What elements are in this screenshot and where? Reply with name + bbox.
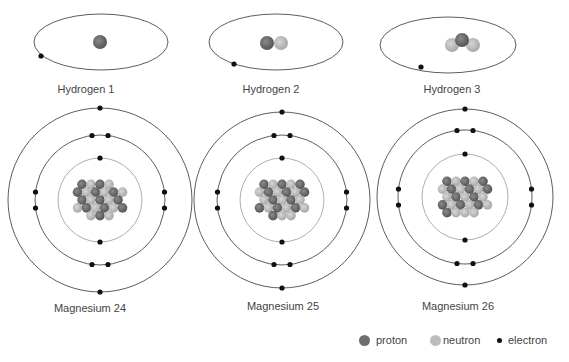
- label-hydrogen-3: Hydrogen 3: [424, 83, 481, 95]
- electron: [454, 261, 459, 266]
- label-hydrogen-2: Hydrogen 2: [243, 83, 300, 95]
- electron: [396, 186, 401, 191]
- electron: [162, 189, 167, 194]
- proton: [118, 203, 128, 213]
- electron: [97, 105, 102, 110]
- legend-electron: electron: [497, 334, 547, 346]
- electron: [231, 61, 236, 66]
- electron: [462, 237, 467, 242]
- legend-proton: proton: [359, 334, 407, 346]
- neutron: [460, 208, 470, 218]
- electron: [105, 262, 110, 267]
- electron: [97, 239, 102, 244]
- label-magnesium-26: Magnesium 26: [422, 300, 494, 312]
- electron: [33, 205, 38, 210]
- proton: [455, 33, 469, 47]
- electron-icon: [497, 338, 502, 343]
- proton: [442, 208, 452, 218]
- label-magnesium-24: Magnesium 24: [54, 302, 126, 314]
- electron: [271, 133, 276, 138]
- electron: [462, 106, 467, 111]
- electron: [287, 262, 292, 267]
- electron: [33, 189, 38, 194]
- electron: [462, 151, 467, 156]
- atom-hydrogen-1: [34, 14, 168, 70]
- proton: [95, 211, 105, 221]
- electron: [271, 262, 276, 267]
- electron: [454, 128, 459, 133]
- electron: [215, 189, 220, 194]
- electron: [162, 205, 167, 210]
- legend-neutron-label: neutron: [443, 334, 480, 346]
- legend-neutron: neutron: [430, 334, 480, 346]
- electron: [279, 285, 284, 290]
- neutron: [277, 211, 287, 221]
- proton: [255, 203, 265, 213]
- neutron: [469, 208, 479, 218]
- neutron: [451, 208, 461, 218]
- electron: [287, 133, 292, 138]
- electron: [470, 261, 475, 266]
- legend-electron-label: electron: [508, 334, 547, 346]
- neutron: [286, 211, 296, 221]
- electron: [97, 155, 102, 160]
- atom-hydrogen-2: [209, 14, 343, 70]
- neutron: [483, 200, 493, 210]
- neutron: [73, 203, 83, 213]
- atom-hydrogen-3: [380, 17, 516, 73]
- legend-proton-label: proton: [376, 334, 407, 346]
- electron: [279, 155, 284, 160]
- neutron: [274, 36, 288, 50]
- proton-icon: [359, 335, 370, 346]
- proton: [260, 36, 274, 50]
- electron: [89, 262, 94, 267]
- electron: [89, 133, 94, 138]
- electron: [470, 128, 475, 133]
- neutron-icon: [430, 335, 441, 346]
- electron: [462, 282, 467, 287]
- atom-magnesium-26: [377, 106, 553, 287]
- electron: [279, 109, 284, 114]
- neutron: [104, 211, 114, 221]
- proton: [93, 35, 107, 49]
- electron: [344, 189, 349, 194]
- electron: [529, 202, 534, 207]
- electron: [279, 239, 284, 244]
- label-magnesium-25: Magnesium 25: [247, 300, 319, 312]
- electron: [215, 205, 220, 210]
- electron: [38, 53, 43, 58]
- proton: [268, 211, 278, 221]
- atom-magnesium-24: [8, 105, 192, 294]
- electron: [97, 289, 102, 294]
- electron: [418, 64, 423, 69]
- neutron: [300, 203, 310, 213]
- electron: [396, 202, 401, 207]
- atom-magnesium-25: [194, 109, 370, 290]
- electron: [105, 133, 110, 138]
- neutron: [86, 211, 96, 221]
- electron: [529, 186, 534, 191]
- electron: [344, 205, 349, 210]
- label-hydrogen-1: Hydrogen 1: [58, 83, 115, 95]
